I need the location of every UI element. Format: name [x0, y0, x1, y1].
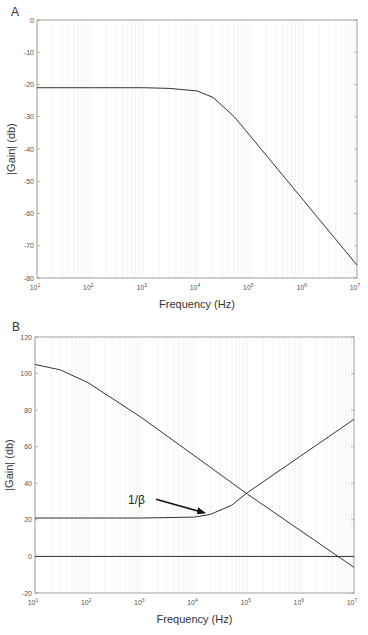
annotation-label: 1/β — [128, 493, 145, 507]
grid — [35, 337, 352, 593]
y-tick-label: -20 — [22, 590, 32, 597]
y-tick-label: 0 — [28, 553, 32, 560]
y-tick-label: 100 — [20, 370, 32, 377]
y-tick-label: 20 — [24, 516, 32, 523]
x-tick-label: 107 — [347, 597, 358, 606]
x-tick-label: 102 — [81, 597, 92, 606]
x-tick-label: 106 — [294, 597, 305, 606]
x-tick-label: 105 — [240, 597, 251, 606]
x-tick-label: 101 — [28, 597, 39, 606]
y-tick-label: 60 — [24, 443, 32, 450]
x-tick-label: 104 — [187, 597, 198, 606]
arrowhead-icon — [197, 507, 206, 514]
y-tick-label: 120 — [20, 334, 32, 341]
y-tick-label: 80 — [24, 407, 32, 414]
x-tick-label: 103 — [134, 597, 145, 606]
x-axis-label: Frequency (Hz) — [157, 613, 233, 625]
chart-b: 120100806040200-20101102103104105106107F… — [0, 0, 368, 635]
annotation-arrow — [156, 499, 202, 512]
y-tick-label: 40 — [24, 480, 32, 487]
y-axis-label: |Gain| (db) — [3, 439, 15, 491]
